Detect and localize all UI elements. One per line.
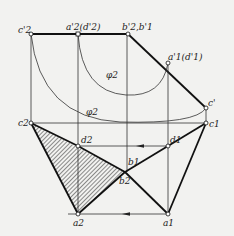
label-a1: a1 (163, 218, 174, 228)
label-phi2-upper: φ2 (106, 70, 118, 80)
point-b2-prime (126, 32, 130, 36)
point-a2-prime (76, 32, 80, 36)
arc-lower (31, 34, 206, 122)
label-b1: b1 (128, 157, 140, 167)
label-d1: d1 (170, 135, 182, 145)
label-a2: a2 (73, 218, 84, 228)
label-phi2-lower: φ2 (86, 107, 98, 117)
edge-b-a1 (125, 172, 168, 214)
projection-diagram: c'2 a'2(d'2) b'2,b'1 a'1(d'1) c' φ2 φ2 c… (0, 0, 234, 236)
inclined-edge (128, 34, 206, 108)
label-c-prime: c' (208, 98, 216, 108)
point-d2 (76, 144, 80, 148)
label-c1: c1 (209, 119, 220, 129)
point-c1 (204, 121, 208, 125)
point-a2 (76, 212, 80, 216)
label-b2: b2 (119, 176, 131, 186)
label-c2-prime: c'2 (18, 25, 32, 35)
arrow-a (122, 212, 130, 215)
label-d2: d2 (81, 135, 93, 145)
arc-upper (78, 34, 168, 95)
label-b2-prime-b1-prime: b'2,b'1 (122, 22, 153, 32)
label-a2-prime-d2-prime: a'2(d'2) (66, 22, 101, 32)
point-a1 (166, 212, 170, 216)
label-a1-prime-d1-prime: a'1(d'1) (168, 52, 203, 62)
label-c2: c2 (18, 118, 29, 128)
arrow-d (136, 144, 144, 147)
point-c2 (29, 121, 33, 125)
